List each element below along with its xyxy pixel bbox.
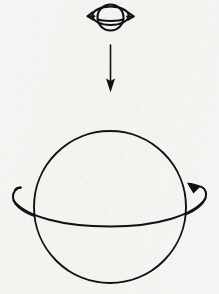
figure-page (0, 0, 219, 294)
large-sphere-group (13, 131, 206, 283)
small-sphere-group (88, 5, 134, 31)
large-sphere-ring-front (14, 199, 206, 227)
small-sphere-body (98, 5, 124, 31)
down-arrow-group (106, 45, 115, 93)
large-sphere-body (34, 131, 186, 283)
large-sphere-ring-back-left (13, 188, 35, 216)
small-sphere-equator (98, 19, 124, 21)
physics-diagram (0, 0, 219, 294)
